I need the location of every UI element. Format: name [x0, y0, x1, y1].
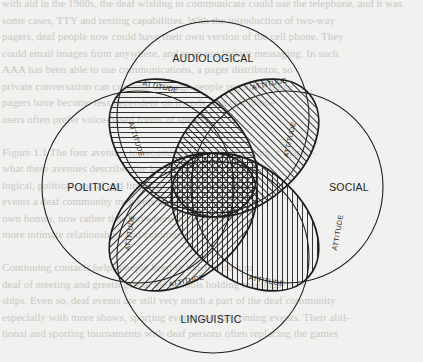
- label-audiological: AUDIOLOGICAL: [172, 52, 253, 64]
- venn-diagram: AUDIOLOGICAL POLITICAL SOCIAL LINGUISTIC…: [0, 0, 423, 362]
- attitude-label-lr-right: ATTITUDE: [331, 214, 344, 251]
- label-social: SOCIAL: [329, 181, 369, 193]
- label-political: POLITICAL: [67, 181, 122, 193]
- label-linguistic: LINGUISTIC: [181, 313, 242, 325]
